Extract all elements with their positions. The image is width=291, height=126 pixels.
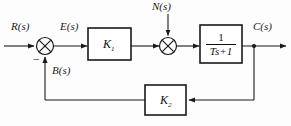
label-feedback-bs: B(s) <box>52 64 70 76</box>
label-output-cs: C(s) <box>253 20 272 32</box>
label-error-es: E(s) <box>60 20 78 32</box>
block-diagram: R(s) E(s) N(s) C(s) B(s) − K1 K2 1 Ts+1 <box>0 0 291 126</box>
plant-numerator: 1 <box>218 32 224 44</box>
label-plant-transfer-function: 1 Ts+1 <box>200 25 242 63</box>
diagram-canvas <box>0 0 291 126</box>
label-forward-gain: K1 <box>103 37 115 53</box>
label-disturbance-ns: N(s) <box>152 0 171 12</box>
label-feedback-gain-subscript: 2 <box>168 101 172 109</box>
label-feedback-gain: K2 <box>160 93 172 109</box>
summing-junction-1-minus-sign: − <box>33 53 40 65</box>
label-forward-gain-subscript: 1 <box>111 45 115 53</box>
plant-denominator: Ts+1 <box>210 45 232 57</box>
label-input-rs: R(s) <box>11 20 29 32</box>
label-forward-gain-symbol: K <box>103 37 111 51</box>
label-feedback-gain-symbol: K <box>160 93 168 107</box>
